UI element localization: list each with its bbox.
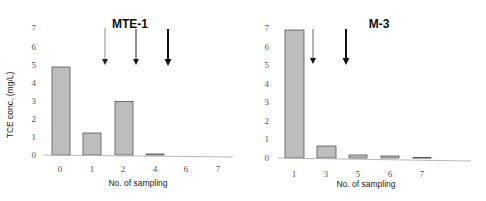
chart-m-3-svg: M-3 0 1 2 3 4 5 6 7 1 3 5 6 7: [243, 0, 486, 201]
bar-1: [285, 30, 304, 158]
chart-title: MTE-1: [112, 17, 148, 31]
y-tick: 6: [265, 42, 270, 52]
x-tick: 4: [153, 164, 158, 174]
x-tick: 0: [58, 164, 63, 174]
bars: [52, 67, 164, 155]
y-axis-ticks: 0 1 2 3 4 5 6 7: [32, 23, 37, 160]
chart-title: M-3: [369, 17, 390, 31]
chart-m-3: M-3 0 1 2 3 4 5 6 7 1 3 5 6 7: [243, 0, 486, 201]
x-tick: 3: [324, 169, 329, 179]
y-tick: 3: [32, 96, 37, 106]
arrow-down-icon: [102, 28, 108, 65]
y-tick: 0: [32, 150, 37, 160]
y-tick: 7: [265, 23, 270, 33]
y-tick: 1: [265, 134, 270, 144]
chart-mte-1-svg: MTE-1 TCE conc. (mg/L) 0 1 2 3 4 5 6 7 0…: [0, 0, 243, 201]
x-tick: 1: [292, 169, 297, 179]
arrow-down-icon: [133, 29, 139, 65]
x-tick: 2: [121, 164, 126, 174]
y-tick: 5: [265, 60, 270, 70]
y-tick: 4: [265, 79, 270, 89]
x-axis-line: [278, 158, 471, 161]
y-axis-title: TCE conc. (mg/L): [5, 72, 15, 139]
y-tick: 4: [32, 78, 37, 88]
treatment-arrows: [310, 29, 350, 65]
x-axis-ticks: 0 1 2 4 6 7: [58, 164, 221, 174]
x-tick: 1: [90, 164, 95, 174]
x-axis-line: [44, 155, 233, 157]
treatment-arrows: [102, 28, 172, 66]
x-axis-ticks: 1 3 5 6 7: [292, 169, 425, 179]
bar-6: [381, 156, 399, 158]
x-tick: 7: [420, 169, 425, 179]
x-tick: 6: [184, 164, 189, 174]
bars: [285, 30, 431, 158]
chart-mte-1: MTE-1 TCE conc. (mg/L) 0 1 2 3 4 5 6 7 0…: [0, 0, 243, 201]
y-tick: 2: [265, 116, 270, 126]
bar-4: [146, 154, 164, 155]
y-tick: 6: [32, 42, 37, 52]
x-tick: 5: [356, 169, 361, 179]
y-axis-ticks: 0 1 2 3 4 5 6 7: [265, 23, 270, 163]
bar-0: [52, 67, 70, 155]
x-tick: 7: [216, 164, 221, 174]
arrow-down-icon: [165, 29, 172, 66]
y-tick: 7: [32, 23, 37, 33]
bar-2: [115, 102, 133, 156]
y-tick: 3: [265, 97, 270, 107]
bar-3: [317, 146, 336, 158]
y-tick: 5: [32, 60, 37, 70]
y-tick: 2: [32, 114, 37, 124]
bar-7: [413, 158, 431, 159]
x-axis-title: No. of sampling: [336, 179, 395, 189]
x-axis-title: No. of sampling: [108, 178, 167, 188]
x-tick: 6: [388, 169, 393, 179]
y-tick: 0: [265, 153, 270, 163]
arrow-down-icon: [343, 29, 350, 65]
bar-5: [349, 155, 367, 158]
bar-1: [83, 133, 101, 155]
arrow-down-icon: [310, 29, 316, 64]
y-tick: 1: [32, 132, 37, 142]
